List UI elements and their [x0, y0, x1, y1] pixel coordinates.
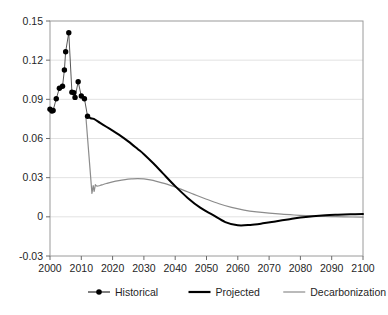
y-tick-label: 0.12	[23, 54, 44, 66]
legend-sample-marker	[96, 289, 102, 295]
historical-line	[50, 33, 88, 117]
x-tick-label: 2050	[195, 262, 219, 274]
legend-label: Decarbonization	[310, 286, 386, 298]
x-tick-label: 2010	[70, 262, 94, 274]
x-tick-label: 2030	[132, 262, 156, 274]
historical-data-point	[71, 90, 76, 95]
y-tick-label: 0	[37, 210, 43, 222]
historical-data-point	[82, 96, 87, 101]
x-tick-label: 2100	[351, 262, 375, 274]
grid-lines	[50, 60, 363, 217]
y-tick-label: 0.03	[23, 171, 44, 183]
x-axis-ticks	[50, 256, 363, 260]
y-tick-label: 0.06	[23, 132, 44, 144]
historical-data-point	[66, 30, 71, 35]
historical-data-point	[50, 108, 55, 113]
x-tick-label: 2070	[257, 262, 281, 274]
line-chart: 0.150.120.090.060.030-0.03 2000201020202…	[0, 0, 388, 315]
historical-data-point	[72, 95, 77, 100]
x-tick-label: 2000	[38, 262, 62, 274]
y-tick-label: -0.03	[19, 250, 43, 262]
chart-legend: HistoricalProjectedDecarbonization	[88, 286, 386, 298]
y-axis-tick-labels: 0.150.120.090.060.030-0.03	[19, 15, 43, 262]
x-tick-label: 2040	[164, 262, 188, 274]
series-decarbonization	[86, 118, 363, 217]
x-axis-tick-labels: 2000201020202030204020502060207020802090…	[38, 262, 375, 274]
legend-label: Projected	[216, 286, 261, 298]
series-projected	[88, 116, 363, 225]
historical-data-point	[60, 84, 65, 89]
x-tick-label: 2060	[226, 262, 250, 274]
historical-data-point	[75, 79, 80, 84]
y-axis-ticks	[46, 21, 50, 256]
historical-data-point	[85, 114, 90, 119]
chart-container: 0.150.120.090.060.030-0.03 2000201020202…	[0, 0, 388, 315]
historical-data-point	[62, 67, 67, 72]
x-tick-label: 2090	[320, 262, 344, 274]
y-tick-label: 0.09	[23, 93, 44, 105]
decarbonization-line-segment	[86, 118, 95, 193]
legend-label: Historical	[115, 286, 158, 298]
historical-data-point	[63, 49, 68, 54]
y-tick-label: 0.15	[23, 15, 44, 27]
projected-line	[88, 116, 363, 225]
x-tick-label: 2080	[289, 262, 313, 274]
series-historical	[47, 30, 90, 119]
x-tick-label: 2020	[101, 262, 125, 274]
decarbonization-line	[95, 179, 363, 218]
historical-data-point	[54, 96, 59, 101]
